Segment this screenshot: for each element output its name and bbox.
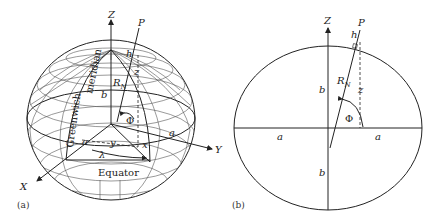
label-a-right: a bbox=[169, 127, 175, 138]
label-z-small: z bbox=[133, 66, 140, 77]
label-z-b: Z bbox=[323, 15, 332, 26]
label-p-b: P bbox=[357, 17, 365, 28]
panel-b-ellipse bbox=[234, 28, 422, 210]
caption-a: (a) bbox=[17, 200, 29, 210]
label-h: h bbox=[126, 48, 132, 59]
label-lambda: λ bbox=[98, 149, 105, 160]
ellipsoid-figure: Z P h z RN b Φ a a y x λ Y X Equator mer… bbox=[0, 0, 434, 221]
label-rn-b: RN bbox=[336, 75, 352, 89]
label-x: x bbox=[142, 139, 148, 150]
label-x-axis: X bbox=[19, 181, 28, 192]
label-h-b: h bbox=[351, 29, 357, 40]
label-meridian: meridian bbox=[83, 47, 103, 94]
label-greenwich: Greenwich bbox=[64, 92, 83, 148]
label-b-bottom: b bbox=[319, 167, 325, 178]
label-phi: Φ bbox=[126, 115, 134, 126]
label-b-top: b bbox=[319, 84, 325, 95]
label-y: y bbox=[109, 137, 116, 148]
label-y-axis: Y bbox=[215, 144, 223, 155]
label-a-left-b: a bbox=[277, 131, 283, 142]
label-z: Z bbox=[107, 9, 116, 20]
label-a-left: a bbox=[82, 136, 88, 147]
label-equator: Equator bbox=[98, 167, 139, 178]
label-z-small-b: z bbox=[357, 84, 364, 95]
label-p: P bbox=[137, 17, 145, 28]
label-a-right-b: a bbox=[375, 131, 381, 142]
label-b: b bbox=[101, 89, 107, 100]
label-rn: RN bbox=[112, 77, 128, 91]
caption-b: (b) bbox=[232, 200, 245, 210]
label-phi-b: Φ bbox=[345, 113, 353, 124]
